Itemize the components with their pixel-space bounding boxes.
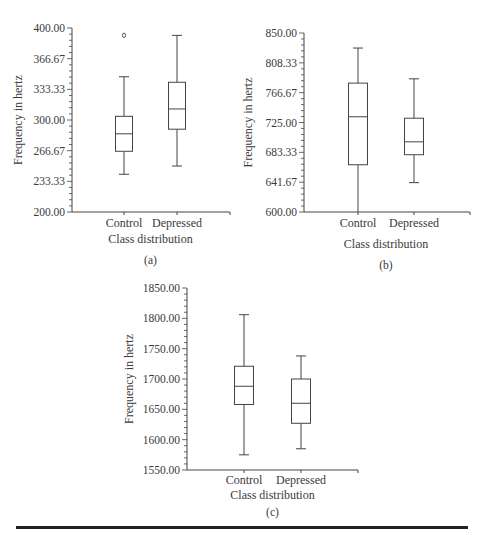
box-depressed xyxy=(405,79,424,183)
iqr-box xyxy=(235,366,254,404)
panel-label: (a) xyxy=(144,254,157,267)
y-tick-label: 266.67 xyxy=(33,145,65,157)
x-axis-title: Class distribution xyxy=(230,488,314,502)
y-tick-label: 600.00 xyxy=(265,206,297,218)
iqr-box xyxy=(292,379,311,423)
y-tick-label: 333.33 xyxy=(33,83,65,95)
x-axis-title: Class distribution xyxy=(108,232,192,246)
y-tick-label: 641.67 xyxy=(265,176,297,188)
y-tick-label: 1850.00 xyxy=(143,282,181,294)
y-tick-label: 1600.00 xyxy=(143,434,181,446)
y-tick-label: 200.00 xyxy=(33,206,65,218)
y-tick-label: 1550.00 xyxy=(143,464,181,476)
figure-canvas: 200.00233.33266.67300.00333.33366.67400.… xyxy=(0,0,484,535)
y-tick-label: 850.00 xyxy=(265,27,297,39)
y-tick-label: 1700.00 xyxy=(143,373,181,385)
iqr-box xyxy=(405,118,424,155)
y-tick-label: 808.33 xyxy=(265,57,297,69)
x-category-label: Control xyxy=(340,216,377,230)
bottom-rule xyxy=(16,526,468,529)
box-control xyxy=(349,48,368,212)
box-depressed xyxy=(169,35,186,166)
y-tick-label: 1650.00 xyxy=(143,403,181,415)
boxplot-panel-b: 600.00641.67683.33725.00766.67808.33850.… xyxy=(241,27,470,272)
y-axis-title: Frequency in hertz xyxy=(11,75,25,165)
iqr-box xyxy=(169,82,186,129)
panel-label: (b) xyxy=(379,259,393,272)
box-control xyxy=(116,33,133,174)
x-category-label: Control xyxy=(226,473,263,487)
y-tick-label: 400.00 xyxy=(33,22,65,34)
outlier-point xyxy=(122,33,125,37)
x-category-label: Depressed xyxy=(389,216,439,230)
x-category-label: Control xyxy=(106,216,143,230)
x-category-label: Depressed xyxy=(276,473,326,487)
y-tick-label: 1800.00 xyxy=(143,312,181,324)
box-depressed xyxy=(292,356,311,449)
iqr-box xyxy=(349,83,368,165)
x-axis-title: Class distribution xyxy=(344,237,428,251)
y-tick-label: 725.00 xyxy=(265,117,297,129)
y-tick-label: 1750.00 xyxy=(143,343,181,355)
boxplot-panel-a: 200.00233.33266.67300.00333.33366.67400.… xyxy=(11,22,230,267)
y-tick-label: 300.00 xyxy=(33,114,65,126)
y-tick-label: 683.33 xyxy=(265,146,297,158)
y-tick-label: 766.67 xyxy=(265,87,297,99)
boxplot-panel-c: 1550.001600.001650.001700.001750.001800.… xyxy=(122,282,358,519)
panel-label: (c) xyxy=(266,506,279,519)
y-tick-label: 366.67 xyxy=(33,53,65,65)
box-control xyxy=(235,315,254,455)
y-axis-title: Frequency in hertz xyxy=(122,334,136,424)
y-axis-title: Frequency in hertz xyxy=(241,78,255,168)
y-tick-label: 233.33 xyxy=(33,175,65,187)
x-category-label: Depressed xyxy=(152,216,202,230)
